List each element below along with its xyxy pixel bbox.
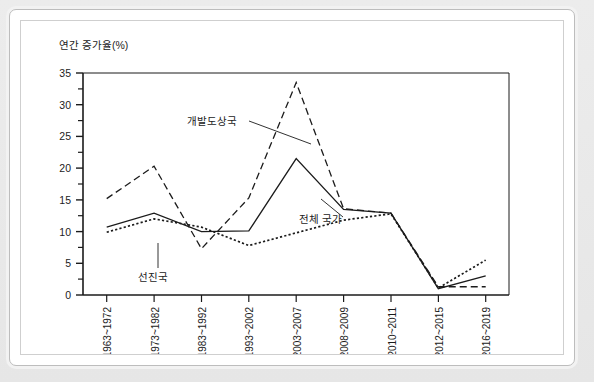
series-line-developing-countries [107,83,486,287]
x-tick-label: 2016~2019 [481,307,492,355]
y-tick-10: 10 [59,226,83,238]
y-tick-label: 10 [59,226,71,238]
x-tick-label: 2010~2011 [387,307,398,355]
x-tick-label: 1983~1992 [197,307,208,355]
y-tick-0: 0 [65,289,83,301]
x-tick-label: 1963~1972 [102,307,113,355]
data-series [107,83,486,289]
annotation-label-developing: 개발도상국 [187,115,237,127]
annotation-label-total: 전체 국가 [299,213,342,225]
y-tick-label: 30 [59,99,71,111]
x-tick-label: 2008~2009 [339,307,350,355]
figure-card: 연간 증가율(%) 0 [9,9,575,366]
y-tick-label: 35 [59,67,71,79]
x-axis-ticks [107,295,486,302]
annotation-label-developed: 선진국 [138,271,168,283]
y-axis-title: 연간 증가율(%) [59,39,128,51]
y-tick-30: 30 [59,99,83,111]
figure-inner-frame: 연간 증가율(%) 0 [20,20,564,355]
y-tick-25: 25 [59,130,83,142]
y-tick-5: 5 [65,257,83,269]
y-tick-15: 15 [59,194,83,206]
y-tick-label: 5 [65,257,71,269]
x-tick-label: 1993~2002 [244,307,255,355]
y-tick-label: 0 [65,289,71,301]
chart-svg: 연간 증가율(%) 0 [21,21,564,355]
x-axis-labels: 1963~1972 1973~1982 1983~1992 1993~2002 … [102,307,492,355]
page-background: 연간 증가율(%) 0 [0,0,594,382]
y-tick-35: 35 [59,67,83,79]
leader-line-developing [249,121,311,144]
y-tick-label: 15 [59,194,71,206]
x-tick-label: 2012~2015 [434,307,445,355]
y-tick-label: 25 [59,130,71,142]
line-chart: 연간 증가율(%) 0 [21,21,564,355]
annotation-labels: 개발도상국 전체 국가 선진국 [138,115,342,283]
y-tick-label: 20 [59,162,71,174]
y-tick-20: 20 [59,162,83,174]
series-line-all-countries [107,159,486,289]
x-tick-label: 1973~1982 [150,307,161,355]
x-tick-label: 2003~2007 [292,307,303,355]
plot-frame [83,73,509,295]
